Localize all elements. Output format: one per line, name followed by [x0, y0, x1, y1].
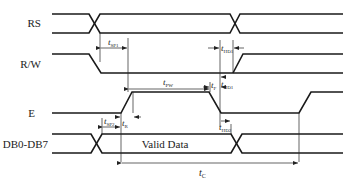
svg-text:tSP1: tSP1: [108, 37, 119, 48]
signal-label-rw: R/W: [20, 58, 41, 70]
tpw-annotation: tPW: [129, 77, 209, 89]
tc-annotation: tC: [122, 163, 298, 179]
svg-text:tR: tR: [122, 118, 129, 129]
rs-waveform: [52, 14, 343, 33]
svg-text:tSP2: tSP2: [104, 116, 115, 127]
e-waveform: [52, 92, 343, 113]
svg-text:tHD2: tHD2: [219, 122, 232, 133]
valid-data-label: Valid Data: [142, 138, 189, 150]
timing-diagram: RS R/W E DB0-DB7 Valid Data tSP1: [0, 0, 351, 182]
svg-text:tHD1: tHD1: [221, 79, 234, 90]
rw-waveform: [52, 54, 343, 73]
svg-text:tHD1: tHD1: [221, 43, 234, 54]
svg-text:tPW: tPW: [163, 77, 173, 88]
thd2-annotation: tHD2: [219, 121, 232, 133]
svg-text:tF: tF: [211, 80, 217, 91]
tsp2-annotation: tSP2: [103, 116, 120, 127]
tsp1-annotation: tSP1: [101, 37, 127, 48]
signal-label-rs: RS: [28, 17, 41, 29]
signal-label-db: DB0-DB7: [3, 138, 49, 150]
signal-label-e: E: [28, 107, 35, 119]
svg-text:tC: tC: [199, 167, 206, 179]
thd1-rs-annotation: tHD1: [208, 43, 244, 54]
thd1-rw-annotation: tHD1: [221, 77, 234, 90]
